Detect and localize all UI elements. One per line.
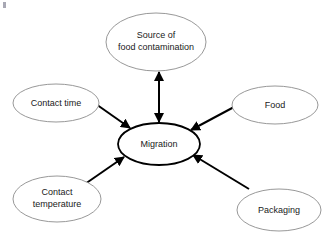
node-source-of-food-contamination[interactable]: Source of food contamination — [106, 13, 206, 71]
connector-contact-temperature-to-migration — [85, 157, 124, 184]
node-label-line2: food contamination — [118, 42, 194, 52]
connector-food-to-migration — [191, 107, 234, 130]
diagram-canvas: Source of food contamination Contact tim… — [0, 0, 331, 235]
node-contact-time[interactable]: Contact time — [13, 84, 99, 122]
node-label-line1: Contact time — [31, 98, 82, 108]
diagram-svg: Source of food contamination Contact tim… — [0, 0, 331, 235]
node-label-migration: Migration — [140, 139, 177, 149]
node-label-line1: Source of — [137, 30, 176, 40]
node-label-line1: Packaging — [258, 205, 300, 215]
connector-packaging-to-migration — [193, 155, 249, 189]
node-label-line1: Food — [265, 100, 286, 110]
node-contact-temperature[interactable]: Contact temperature — [13, 176, 101, 222]
node-label-line2: temperature — [33, 199, 82, 209]
node-migration[interactable]: Migration — [118, 123, 200, 165]
node-label-line1: Contact — [41, 187, 73, 197]
node-food[interactable]: Food — [232, 86, 318, 124]
node-packaging[interactable]: Packaging — [237, 189, 321, 231]
corner-speck-artifact — [3, 2, 6, 8]
